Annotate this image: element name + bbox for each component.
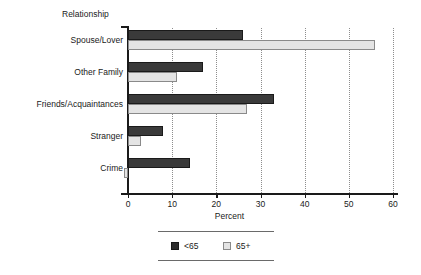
x-tick-label-50: 50 bbox=[334, 199, 364, 209]
legend-rule-top bbox=[158, 231, 274, 232]
legend-entry-under65: <65 bbox=[171, 241, 198, 251]
y-axis-top-cap bbox=[121, 26, 128, 28]
bar bbox=[128, 30, 243, 40]
bar-chart: Relationship 0102030405060 Spouse/LoverO… bbox=[0, 0, 421, 275]
x-tick-50 bbox=[349, 193, 350, 198]
y-axis-title: Relationship bbox=[62, 9, 109, 19]
gridline-50 bbox=[349, 28, 350, 193]
x-tick-label-10: 10 bbox=[157, 199, 187, 209]
legend: <65 65+ bbox=[158, 231, 274, 261]
y-category-label: Other Family bbox=[0, 67, 123, 77]
x-tick-40 bbox=[305, 193, 306, 198]
bar bbox=[128, 62, 203, 72]
x-tick-label-0: 0 bbox=[113, 199, 143, 209]
bar bbox=[128, 40, 375, 50]
bar bbox=[128, 158, 190, 168]
legend-swatch-icon-under65 bbox=[171, 242, 179, 250]
x-tick-30 bbox=[261, 193, 262, 198]
bar bbox=[128, 104, 247, 114]
gridline-30 bbox=[261, 28, 262, 193]
x-tick-10 bbox=[172, 193, 173, 198]
x-tick-label-40: 40 bbox=[290, 199, 320, 209]
bar bbox=[124, 168, 128, 178]
x-tick-0 bbox=[128, 193, 129, 198]
legend-rule-bottom bbox=[158, 260, 274, 261]
bar bbox=[128, 136, 141, 146]
x-tick-label-20: 20 bbox=[201, 199, 231, 209]
bar bbox=[128, 94, 274, 104]
bar bbox=[128, 72, 177, 82]
legend-swatch-icon-65plus bbox=[223, 242, 231, 250]
gridline-40 bbox=[305, 28, 306, 193]
y-category-label: Stranger bbox=[0, 131, 123, 141]
legend-label-under65: <65 bbox=[184, 241, 198, 251]
y-category-label: Crime bbox=[0, 163, 123, 173]
x-tick-20 bbox=[216, 193, 217, 198]
y-category-label: Friends/Acquaintances bbox=[0, 99, 123, 109]
x-tick-label-30: 30 bbox=[246, 199, 276, 209]
legend-label-65plus: 65+ bbox=[236, 241, 250, 251]
gridline-60 bbox=[393, 28, 394, 193]
x-tick-label-60: 60 bbox=[378, 199, 408, 209]
x-axis-line bbox=[121, 193, 398, 195]
y-category-label: Spouse/Lover bbox=[0, 35, 123, 45]
bar bbox=[128, 126, 163, 136]
legend-entry-65plus: 65+ bbox=[223, 241, 250, 251]
x-axis-title: Percent bbox=[0, 211, 421, 221]
x-tick-60 bbox=[393, 193, 394, 198]
